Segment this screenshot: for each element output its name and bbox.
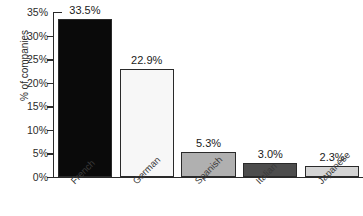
bar-value-label: 3.0%	[258, 149, 283, 160]
bar-value-label: 22.9%	[131, 55, 162, 66]
bar-value-label: 33.5%	[69, 5, 100, 16]
y-tick-mark	[47, 177, 54, 178]
plot-area: 33.5%22.9%5.3%3.0%2.3%	[54, 12, 363, 177]
x-axis-category-labels: FrenchGermanSpanishItalianJapanese	[54, 179, 363, 216]
y-tick-mark	[47, 130, 54, 131]
bar-value-label: 5.3%	[196, 138, 221, 149]
y-tick-label: 0%	[14, 172, 48, 183]
y-tick-label: 5%	[14, 148, 48, 159]
y-axis-tick-labels: 0%5%10%15%20%25%30%35%	[14, 12, 48, 177]
bar-chart: % of companies 0%5%10%15%20%25%30%35% 33…	[0, 0, 363, 216]
y-tick-mark	[47, 83, 54, 84]
y-tick-label: 25%	[14, 54, 48, 65]
y-tick-label: 15%	[14, 101, 48, 112]
y-tick-mark	[47, 59, 54, 60]
y-tick-mark	[47, 36, 54, 37]
y-tick-mark	[47, 106, 54, 107]
y-tick-mark	[47, 153, 54, 154]
y-tick-label: 30%	[14, 30, 48, 41]
y-tick-label: 20%	[14, 77, 48, 88]
bar	[58, 19, 112, 177]
y-tick-label: 10%	[14, 125, 48, 136]
y-tick-label: 35%	[14, 7, 48, 18]
